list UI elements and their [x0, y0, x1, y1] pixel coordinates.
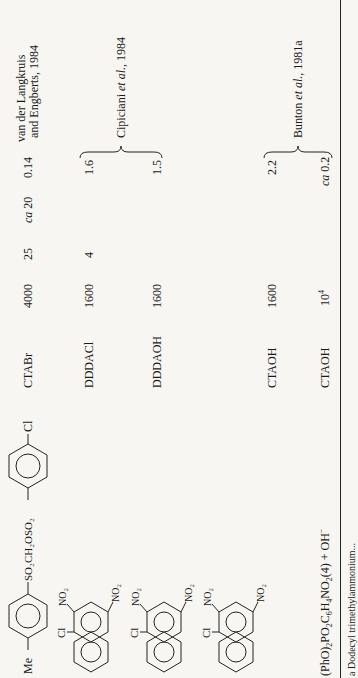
row2-col-a: 1600 [82, 284, 96, 308]
chloro-label: Cl [21, 421, 35, 432]
row4-surfactant: CTAOH [265, 348, 279, 388]
row4-reference: Bunton et al., 1981a [292, 40, 305, 138]
row2-col-d: 1.6 [82, 160, 96, 175]
row4-col-d: 2.2 [265, 160, 279, 175]
row2-surfactant: DDDACl [82, 342, 96, 388]
row4-col-a: 1600 [265, 284, 279, 308]
row5-substrate-formula: (PhO)2PO2C6H4NO2(4) + OH− [318, 529, 332, 676]
table-bottom-rule [340, 0, 341, 678]
row3-surfactant: DDDAOH [150, 336, 164, 388]
row1-col-a: 4000 [21, 284, 35, 308]
chloro-label: Cl [200, 628, 212, 638]
row1-substrate-structure: Me SO₂CH₂OSO₂ Cl [2, 408, 54, 678]
row3-col-d: 1.5 [150, 160, 164, 175]
brace-icon [78, 140, 164, 160]
footnote: a Dodecyl trimethylammonium... [346, 543, 357, 676]
row3-col-a: 1600 [150, 284, 164, 308]
nitro-label-bottom: NO₂ [183, 584, 194, 602]
row2-reference: Cipiciani et al., 1984 [115, 37, 128, 138]
row5-col-d: ca 0.2 [318, 157, 332, 186]
row1-surfactant: CTABr [21, 353, 35, 388]
nitro-label-top: NO₂ [130, 588, 141, 606]
row2-substrate-structure: Cl NO₂ NO₂ [55, 568, 125, 678]
nitro-label-top: NO₂ [57, 588, 68, 606]
row4-substrate-structure: Cl NO₂ NO₂ [200, 568, 270, 678]
row3-substrate-structure: Cl NO₂ NO₂ [128, 568, 198, 678]
row1-col-b: 25 [21, 248, 35, 260]
row2-col-b: 4 [82, 252, 96, 258]
chloro-label: Cl [128, 628, 140, 638]
nitro-label-bottom: NO₂ [110, 584, 121, 602]
nitro-label-top: NO₂ [202, 588, 213, 606]
rotated-table-page: Me SO₂CH₂OSO₂ Cl CTABr 4000 25 ca 20 0.1… [0, 0, 358, 678]
linker-label: SO₂CH₂OSO₂ [21, 518, 35, 581]
methyl-label: Me [21, 658, 35, 674]
row1-col-d: 0.14 [21, 157, 35, 178]
row5-col-a: 104 [318, 290, 332, 306]
row5-surfactant: CTAOH [318, 348, 332, 388]
row1-reference-line2: and Engberts, 1984 [28, 45, 41, 138]
chloro-label: Cl [55, 628, 67, 638]
row1-col-c: ca 20 [21, 197, 35, 223]
nitro-label-bottom: NO₂ [255, 584, 266, 602]
